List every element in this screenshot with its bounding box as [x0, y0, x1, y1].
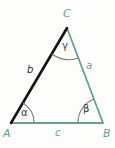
triangle-diagram: A B C b a c α β γ — [0, 0, 115, 148]
vertex-label-c: C — [63, 8, 71, 19]
side-b-line — [11, 28, 67, 123]
side-label-a: a — [86, 61, 92, 71]
vertex-label-a: A — [3, 128, 11, 139]
side-label-c: c — [55, 128, 61, 138]
angle-gamma-arc — [52, 54, 79, 60]
triangle-svg — [0, 0, 115, 148]
angle-label-alpha: α — [21, 108, 28, 118]
side-label-b: b — [27, 65, 33, 75]
angle-label-beta: β — [83, 104, 89, 114]
angle-label-gamma: γ — [62, 41, 68, 51]
vertex-label-b: B — [103, 128, 111, 139]
